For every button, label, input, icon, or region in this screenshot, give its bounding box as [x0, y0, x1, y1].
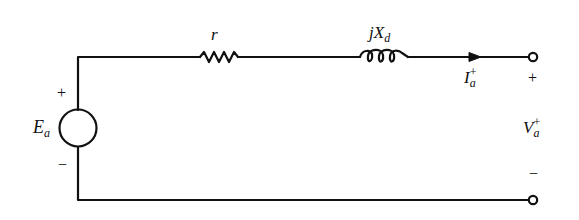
terminal-minus-sign: − [529, 166, 538, 182]
terminal-bottom-icon [529, 196, 537, 204]
current-arrow-icon [469, 53, 481, 62]
source-plus-sign: + [57, 85, 66, 101]
resistor-label-text: r [211, 25, 218, 44]
terminal-plus-sign: + [528, 70, 537, 86]
wire-bottom [78, 147, 529, 200]
inductor-label-x: X [374, 23, 384, 42]
current-superscript: + [470, 65, 477, 79]
current-label: Ia+ [464, 66, 476, 89]
inductor-label: jXd [369, 24, 390, 44]
voltage-superscript: + [533, 115, 540, 129]
voltage-symbol: V [523, 118, 533, 137]
inductor-symbol [360, 50, 408, 62]
inductor-label-subscript: d [384, 31, 390, 45]
circuit-diagram [0, 0, 579, 220]
resistor-label: r [211, 26, 218, 43]
terminal-top-icon [529, 53, 537, 61]
source-label: Ea [33, 118, 50, 139]
terminal-voltage-label: Va+ [523, 116, 540, 139]
source-subscript: a [44, 126, 50, 140]
resistor-symbol [200, 52, 238, 62]
source-symbol: E [33, 117, 44, 137]
voltage-source-icon [60, 110, 97, 147]
source-minus-sign: − [58, 157, 67, 173]
wire-left-top [78, 57, 200, 110]
